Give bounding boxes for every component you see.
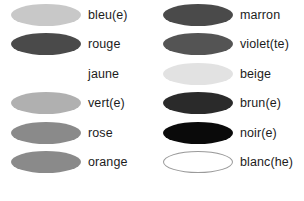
color-swatch-ellipse-icon — [11, 33, 81, 55]
color-name-label: noir(e) — [240, 127, 277, 140]
legend-row: rouge — [0, 30, 152, 60]
color-name-label: vert(e) — [88, 97, 125, 110]
color-legend: bleu(e)rougejaunevert(e)roseorange marro… — [0, 0, 304, 201]
legend-row: vert(e) — [0, 89, 152, 119]
color-swatch-cell — [0, 89, 88, 119]
legend-row: jaune — [0, 59, 152, 89]
color-swatch-cell — [152, 0, 240, 30]
legend-column-right: marronviolet(te)beigebrun(e)noir(e)blanc… — [152, 0, 304, 201]
color-swatch-ellipse-icon — [11, 92, 81, 114]
color-swatch-cell — [152, 89, 240, 119]
color-swatch-cell — [0, 148, 88, 178]
color-swatch-cell — [152, 30, 240, 60]
legend-row: blanc(he) — [152, 148, 304, 178]
color-swatch-cell — [152, 118, 240, 148]
legend-row: orange — [0, 148, 152, 178]
legend-row: noir(e) — [152, 118, 304, 148]
color-swatch-ellipse-icon — [11, 122, 81, 144]
color-swatch-ellipse-icon — [11, 4, 81, 26]
color-name-label: bleu(e) — [88, 9, 128, 22]
color-swatch-cell — [0, 30, 88, 60]
color-name-label: brun(e) — [240, 97, 281, 110]
color-swatch-cell — [152, 59, 240, 89]
color-swatch-ellipse-icon — [163, 151, 233, 173]
legend-row: brun(e) — [152, 89, 304, 119]
color-name-label: marron — [240, 9, 280, 22]
legend-row: beige — [152, 59, 304, 89]
color-swatch-ellipse-icon — [163, 4, 233, 26]
color-name-label: rouge — [88, 38, 120, 51]
color-swatch-cell — [0, 118, 88, 148]
color-swatch-ellipse-icon — [163, 122, 233, 144]
color-swatch-cell — [152, 148, 240, 178]
color-swatch-cell — [0, 0, 88, 30]
color-name-label: violet(te) — [240, 38, 289, 51]
color-name-label: blanc(he) — [240, 156, 293, 169]
color-name-label: beige — [240, 68, 271, 81]
color-swatch-cell — [0, 59, 88, 89]
color-name-label: orange — [88, 156, 128, 169]
color-name-label: jaune — [88, 68, 119, 81]
color-swatch-ellipse-icon — [11, 151, 81, 173]
color-name-label: rose — [88, 127, 113, 140]
legend-row: violet(te) — [152, 30, 304, 60]
color-swatch-ellipse-icon — [163, 92, 233, 114]
legend-column-left: bleu(e)rougejaunevert(e)roseorange — [0, 0, 152, 201]
color-swatch-ellipse-icon — [11, 63, 81, 85]
color-swatch-ellipse-icon — [163, 63, 233, 85]
color-swatch-ellipse-icon — [163, 33, 233, 55]
legend-row: bleu(e) — [0, 0, 152, 30]
legend-row: rose — [0, 118, 152, 148]
legend-row: marron — [152, 0, 304, 30]
